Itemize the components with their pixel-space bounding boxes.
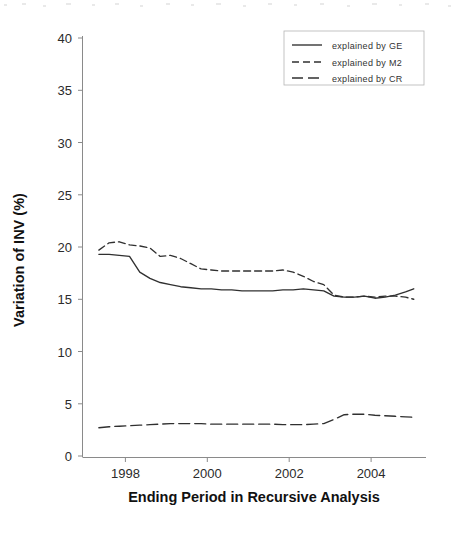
y-tickmarks <box>78 38 83 456</box>
y-tick-label: 10 <box>58 345 72 360</box>
y-axis-title: Variation of INV (%) <box>11 193 27 327</box>
legend-label-cr: explained by CR <box>332 74 403 84</box>
y-tick-label: 5 <box>65 397 72 412</box>
x-tick-label: 2004 <box>357 466 386 481</box>
x-tickmarks <box>125 458 371 463</box>
y-tick-label: 35 <box>58 83 72 98</box>
x-tick-label: 1998 <box>111 466 140 481</box>
legend-label-ge: explained by GE <box>332 41 403 51</box>
y-tick-label: 30 <box>58 136 72 151</box>
series-line-cr <box>99 414 414 428</box>
chart-legend: explained by GE explained by M2 explaine… <box>284 31 424 85</box>
x-tick-label: 2002 <box>275 466 304 481</box>
series-line-ge <box>99 254 414 298</box>
scan-artifacts <box>4 3 451 7</box>
y-tick-labels: 40 35 30 25 20 15 10 5 0 <box>58 31 72 464</box>
y-tick-label: 0 <box>65 449 72 464</box>
chart-canvas: 40 35 30 25 20 15 10 5 0 1998 2000 2002 … <box>0 0 460 534</box>
y-tick-label: 15 <box>58 292 72 307</box>
chart-figure: 40 35 30 25 20 15 10 5 0 1998 2000 2002 … <box>0 0 460 534</box>
x-tick-labels: 1998 2000 2002 2004 <box>111 466 386 481</box>
x-tick-label: 2000 <box>193 466 222 481</box>
y-tick-label: 40 <box>58 31 72 46</box>
y-tick-label: 25 <box>58 188 72 203</box>
data-series-group <box>99 242 414 428</box>
legend-label-m2: explained by M2 <box>332 58 402 68</box>
x-axis-title: Ending Period in Recursive Analysis <box>128 489 380 505</box>
y-tick-label: 20 <box>58 240 72 255</box>
